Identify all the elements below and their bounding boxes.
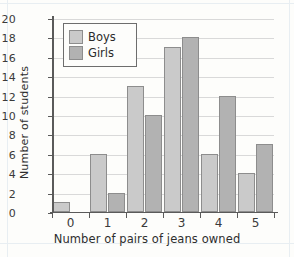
legend-item-girls: Girls xyxy=(69,46,131,60)
x-axis-title: Number of pairs of jeans owned xyxy=(0,232,294,246)
y-axis-tick-label: 14 xyxy=(1,71,16,84)
bar-girls-2 xyxy=(145,115,162,212)
legend-label-boys: Boys xyxy=(88,30,116,44)
x-axis-tick-label: 5 xyxy=(252,216,260,230)
y-axis-tick-label: 16 xyxy=(1,51,16,64)
x-axis-tick-mark xyxy=(274,213,275,218)
x-axis-tick-mark xyxy=(89,213,90,218)
y-axis-line xyxy=(52,16,54,213)
bar-girls-4 xyxy=(219,96,236,212)
y-axis-tick-label: 18 xyxy=(1,32,16,45)
bar-girls-3 xyxy=(182,37,199,212)
y-axis-tick-label: 12 xyxy=(1,90,16,103)
y-axis-tick-label: 2 xyxy=(9,187,16,200)
bar-chart: Number of students Number of pairs of je… xyxy=(0,0,294,257)
y-axis-tick-label: 10 xyxy=(1,110,16,123)
x-axis-tick-label: 1 xyxy=(104,216,112,230)
x-axis-tick-label: 4 xyxy=(215,216,223,230)
legend-swatch-girls-icon xyxy=(69,46,83,60)
bar-boys-1 xyxy=(90,154,107,212)
x-axis-tick-mark xyxy=(52,213,53,218)
x-axis-tick-mark xyxy=(200,213,201,218)
bar-boys-3 xyxy=(164,47,181,212)
y-axis-tick-label: 4 xyxy=(9,168,16,181)
y-axis-tick-label: 8 xyxy=(9,129,16,142)
x-axis-line xyxy=(50,212,278,214)
x-axis-tick-mark xyxy=(163,213,164,218)
y-axis-title: Number of students xyxy=(18,43,31,203)
legend: Boys Girls xyxy=(63,23,137,67)
legend-item-boys: Boys xyxy=(69,30,131,44)
bar-boys-2 xyxy=(127,86,144,212)
legend-label-girls: Girls xyxy=(88,46,114,60)
y-axis-tick-label: 20 xyxy=(1,13,16,26)
x-axis-tick-label: 3 xyxy=(178,216,186,230)
x-axis-tick-mark xyxy=(237,213,238,218)
legend-swatch-boys-icon xyxy=(69,30,83,44)
x-axis-tick-label: 2 xyxy=(141,216,149,230)
bar-boys-5 xyxy=(238,173,255,212)
bar-boys-4 xyxy=(201,154,218,212)
y-axis-tick-label: 0 xyxy=(9,207,16,220)
bar-girls-5 xyxy=(256,144,273,212)
x-axis-tick-label: 0 xyxy=(67,216,75,230)
x-axis-tick-mark xyxy=(126,213,127,218)
y-axis-tick-label: 6 xyxy=(9,148,16,161)
bar-girls-1 xyxy=(108,193,125,212)
